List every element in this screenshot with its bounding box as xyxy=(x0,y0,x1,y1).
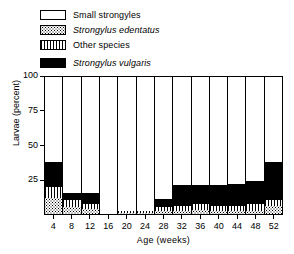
bar-column-week-44 xyxy=(228,77,246,214)
bar-stack xyxy=(265,77,282,214)
segment-strongylus-edentatus xyxy=(210,211,227,214)
segment-strongylus-vulgaris xyxy=(228,184,245,206)
x-axis: 481216202428323640444852 xyxy=(44,215,283,235)
bar-stack xyxy=(118,77,135,214)
bar-stack xyxy=(155,77,172,214)
legend-label-strongylus-edentatus: Strongylus edentatus xyxy=(73,25,160,35)
segment-strongylus-vulgaris xyxy=(265,162,282,200)
x-tick-mark xyxy=(71,215,72,219)
segment-strongylus-edentatus xyxy=(155,211,172,214)
x-tick-label: 32 xyxy=(172,221,192,232)
segment-strongylus-edentatus xyxy=(246,211,263,214)
bar-column-week-4 xyxy=(45,77,63,214)
stipple-swatch-icon xyxy=(40,25,66,35)
x-tick-label: 20 xyxy=(117,221,137,232)
segment-small-strongyles xyxy=(82,77,99,193)
plot-area xyxy=(44,76,283,215)
segment-small-strongyles xyxy=(210,77,227,185)
segment-strongylus-edentatus xyxy=(82,209,99,214)
y-tick-label: 25 xyxy=(28,174,38,185)
bar-column-week-32 xyxy=(173,77,191,214)
x-tick-mark xyxy=(237,215,238,219)
x-tick-label: 44 xyxy=(227,221,247,232)
bar-column-week-36 xyxy=(192,77,210,214)
segment-strongylus-edentatus xyxy=(173,211,190,214)
segment-other-species xyxy=(246,204,263,211)
black-swatch-icon xyxy=(40,58,66,68)
x-tick-label: 40 xyxy=(209,221,229,232)
bar-column-week-28 xyxy=(155,77,173,214)
segment-strongylus-vulgaris xyxy=(210,185,227,206)
segment-small-strongyles xyxy=(228,77,245,184)
segment-strongylus-vulgaris xyxy=(82,193,99,204)
legend-item-strongylus-edentatus: Strongylus edentatus xyxy=(40,23,260,37)
bar-stack xyxy=(63,77,80,214)
bar-stack xyxy=(100,77,117,214)
segment-strongylus-edentatus xyxy=(45,198,62,214)
segment-strongylus-vulgaris xyxy=(173,185,190,206)
bar-stack xyxy=(45,77,62,214)
y-tick-label: 100 xyxy=(23,70,38,81)
segment-strongylus-vulgaris xyxy=(63,193,80,200)
x-tick-mark xyxy=(200,215,201,219)
x-tick-label: 16 xyxy=(98,221,118,232)
segment-strongylus-vulgaris xyxy=(192,185,209,204)
y-tick-label: 75 xyxy=(28,105,38,116)
stacked-bars xyxy=(45,77,282,214)
y-axis-title: Larvae (percent) xyxy=(11,63,21,163)
x-tick-mark xyxy=(273,215,274,219)
x-tick-label: 36 xyxy=(190,221,210,232)
bar-column-week-20 xyxy=(118,77,136,214)
legend-label-strongylus-vulgaris: Strongylus vulgaris xyxy=(73,58,151,68)
legend-item-small-strongyles: Small strongyles xyxy=(40,8,260,22)
legend-label-small-strongyles: Small strongyles xyxy=(73,10,141,20)
bar-stack xyxy=(228,77,245,214)
bar-stack xyxy=(82,77,99,214)
segment-strongylus-edentatus xyxy=(265,206,282,214)
x-tick-label: 28 xyxy=(154,221,174,232)
legend-item-strongylus-vulgaris: Strongylus vulgaris xyxy=(40,56,260,70)
bar-column-week-48 xyxy=(246,77,264,214)
x-tick-mark xyxy=(126,215,127,219)
bar-column-week-8 xyxy=(63,77,81,214)
x-tick-mark xyxy=(163,215,164,219)
segment-strongylus-edentatus xyxy=(192,210,209,214)
segment-small-strongyles xyxy=(45,77,62,162)
segment-small-strongyles xyxy=(137,77,154,211)
segment-strongylus-edentatus xyxy=(118,213,135,214)
chart-legend: Small strongyles Strongylus edentatus Ot… xyxy=(40,8,260,71)
x-tick-label: 12 xyxy=(80,221,100,232)
segment-strongylus-vulgaris xyxy=(45,162,62,187)
bar-column-week-40 xyxy=(210,77,228,214)
x-tick-mark xyxy=(53,215,54,219)
segment-small-strongyles xyxy=(155,77,172,199)
x-tick-mark xyxy=(89,215,90,219)
segment-small-strongyles xyxy=(173,77,190,185)
segment-strongylus-edentatus xyxy=(228,211,245,214)
bar-column-week-16 xyxy=(100,77,118,214)
x-tick-mark xyxy=(218,215,219,219)
x-tick-mark xyxy=(145,215,146,219)
x-tick-mark xyxy=(181,215,182,219)
segment-small-strongyles xyxy=(192,77,209,185)
segment-strongylus-vulgaris xyxy=(246,181,263,204)
segment-strongylus-edentatus xyxy=(63,207,80,214)
x-tick-label: 48 xyxy=(245,221,265,232)
segment-strongylus-vulgaris xyxy=(155,199,172,207)
legend-item-other-species: Other species xyxy=(40,38,260,52)
bar-column-week-12 xyxy=(82,77,100,214)
x-tick-label: 24 xyxy=(135,221,155,232)
bar-stack xyxy=(192,77,209,214)
x-tick-label: 8 xyxy=(62,221,82,232)
segment-other-species xyxy=(63,200,80,207)
white-swatch-icon xyxy=(40,10,66,20)
x-tick-mark xyxy=(255,215,256,219)
x-tick-label: 4 xyxy=(43,221,63,232)
segment-small-strongyles xyxy=(246,77,263,181)
bar-stack xyxy=(246,77,263,214)
bar-stack xyxy=(173,77,190,214)
bar-stack xyxy=(210,77,227,214)
x-tick-label: 52 xyxy=(264,221,284,232)
bar-stack xyxy=(137,77,154,214)
segment-strongylus-edentatus xyxy=(137,213,154,214)
